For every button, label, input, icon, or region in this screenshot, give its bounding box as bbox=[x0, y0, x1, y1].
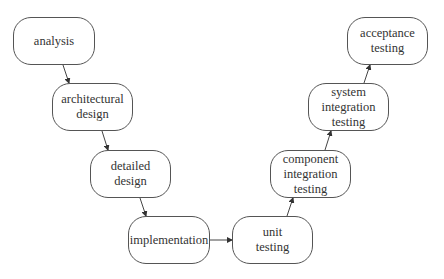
node-label: acceptance bbox=[360, 26, 415, 41]
node-label: testing bbox=[294, 182, 327, 197]
node-label: implementation bbox=[130, 233, 208, 248]
node-label: analysis bbox=[34, 34, 74, 49]
node-label: testing bbox=[332, 115, 365, 130]
node-label: integration bbox=[283, 167, 337, 182]
node-architectural-design: architecturaldesign bbox=[52, 83, 133, 131]
node-label: testing bbox=[256, 240, 289, 255]
node-label: component bbox=[283, 152, 339, 167]
arrow-system-integration-testing-to-acceptance-testing bbox=[364, 65, 370, 83]
node-label: unit bbox=[263, 225, 282, 240]
arrow-component-integration-testing-to-system-integration-testing bbox=[325, 131, 331, 150]
node-component-integration-testing: componentintegrationtesting bbox=[270, 150, 351, 198]
node-label: detailed bbox=[111, 159, 151, 174]
arrow-analysis-to-architectural-design bbox=[63, 65, 69, 83]
node-system-integration-testing: systemintegrationtesting bbox=[308, 83, 389, 131]
node-implementation: implementation bbox=[128, 216, 210, 264]
node-label: design bbox=[76, 107, 109, 122]
arrow-unit-testing-to-component-integration-testing bbox=[287, 198, 293, 216]
node-label: integration bbox=[321, 100, 375, 115]
arrow-architectural-design-to-detailed-design bbox=[102, 131, 108, 150]
node-label: design bbox=[114, 174, 147, 189]
node-label: architectural bbox=[61, 92, 123, 107]
node-detailed-design: detaileddesign bbox=[90, 150, 171, 198]
node-acceptance-testing: acceptancetesting bbox=[347, 17, 428, 65]
node-unit-testing: unittesting bbox=[232, 216, 313, 264]
node-label: system bbox=[331, 85, 366, 100]
arrow-detailed-design-to-implementation bbox=[140, 198, 146, 216]
node-analysis: analysis bbox=[13, 17, 95, 65]
node-label: testing bbox=[371, 41, 404, 56]
